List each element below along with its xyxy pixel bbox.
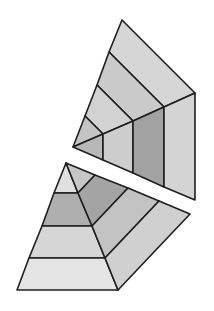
lower-front-band-4 xyxy=(17,258,118,290)
upper-side-band-3 xyxy=(133,107,164,187)
diagram-canvas xyxy=(0,0,214,311)
split-pyramid-diagram xyxy=(0,0,214,311)
upper-side-band-4 xyxy=(164,93,195,200)
